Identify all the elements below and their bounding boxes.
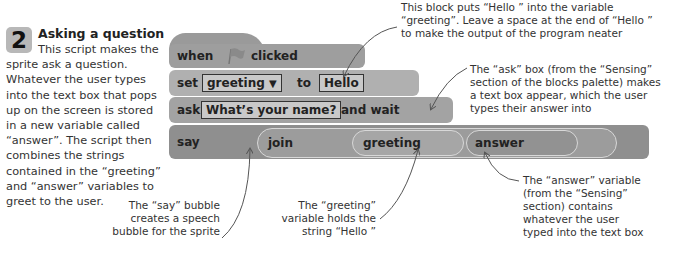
ask-label: ask [177, 103, 200, 117]
intro-body: sprite ask a question. Whatever the user… [6, 58, 161, 208]
and-wait-label: and wait [341, 103, 399, 117]
note-line: (from the “Sensing” [523, 187, 644, 200]
say-label: say [177, 135, 200, 149]
when-flag-clicked-block[interactable]: when clicked [169, 44, 365, 68]
note-line: “greeting”. Leave a space at the end of … [401, 14, 653, 27]
intro-text: This script makes the sprite ask a quest… [6, 42, 166, 209]
greeting-label: greeting [363, 136, 421, 150]
ask-and-wait-block[interactable]: ask What’s your name? and wait [169, 97, 453, 123]
note-line: section) contains [523, 200, 644, 213]
variable-name: greeting [207, 76, 265, 90]
join-label: join [268, 136, 293, 150]
note-line: creates a speech [110, 212, 220, 225]
question-input[interactable]: What’s your name? [201, 101, 341, 119]
note-line: to make the output of the program neater [401, 27, 653, 40]
note-line: The “answer” variable [523, 174, 644, 187]
note-line: The “greeting” [280, 199, 376, 212]
answer-variable-note: The “answer” variable (from the “Sensing… [523, 174, 644, 239]
answer-label: answer [475, 136, 524, 150]
green-flag-icon [227, 47, 247, 65]
note-line: whatever the user [523, 213, 644, 226]
note-line: section of the blocks palette) makes [470, 76, 661, 89]
note-line: string “Hello ” [280, 225, 376, 238]
answer-variable-reporter[interactable]: answer [466, 130, 578, 156]
when-label: when [177, 49, 213, 63]
arrow-to-greeting [380, 150, 418, 219]
note-line: a text box appear, which the user [470, 89, 661, 102]
set-variable-block[interactable]: set greeting ▼ to Hello [169, 70, 419, 96]
ask-block-note: The “ask” box (from the “Sensing” sectio… [470, 63, 661, 115]
note-line: This block puts “Hello ” into the variab… [401, 1, 653, 14]
set-label: set [177, 76, 198, 90]
step-title: Asking a question [38, 26, 164, 41]
note-line: typed into the text box [523, 226, 644, 239]
note-line: variable holds the [280, 212, 376, 225]
clicked-label: clicked [251, 49, 298, 63]
note-line: The “say” bubble [110, 199, 220, 212]
set-value-input[interactable]: Hello [319, 74, 364, 92]
note-line: bubble for the sprite [110, 225, 220, 238]
dropdown-arrow-icon: ▼ [269, 78, 277, 89]
note-line: types their answer into [470, 102, 661, 115]
arrow-to-say [222, 149, 250, 238]
say-block-note: The “say” bubble creates a speech bubble… [110, 199, 220, 238]
set-block-note: This block puts “Hello ” into the variab… [401, 1, 653, 40]
variable-dropdown[interactable]: greeting ▼ [202, 74, 282, 92]
greeting-variable-reporter[interactable]: greeting [352, 130, 464, 156]
to-label: to [297, 76, 311, 90]
intro-first-line: This script makes the [38, 43, 159, 56]
greeting-variable-note: The “greeting” variable holds the string… [280, 199, 376, 238]
note-line: The “ask” box (from the “Sensing” [470, 63, 661, 76]
